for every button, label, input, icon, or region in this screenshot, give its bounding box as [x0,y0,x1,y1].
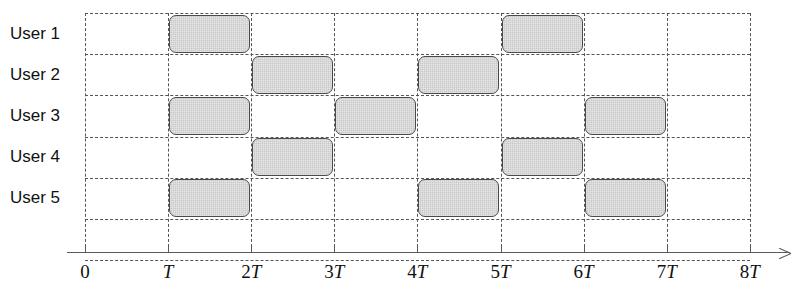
axis-tick [85,245,86,251]
allocation-block [169,97,250,135]
axis-tick-label: 7T [657,262,677,281]
row-label-user-4: User 4 [10,148,80,165]
allocation-block [418,179,499,217]
allocation-block [252,138,333,176]
allocation-block [418,56,499,94]
axis-tick-label: 6T [574,262,594,281]
axis-tick-label: 8T [740,262,760,281]
axis-tick [251,245,252,251]
axis-tick-label: 0 [80,262,90,281]
allocation-block [169,15,250,53]
row-label-user-3: User 3 [10,107,80,124]
grid-line-vertical [501,13,502,252]
axis-tick [667,245,668,251]
axis-line [67,252,790,253]
axis-tick [501,245,502,251]
axis-tick [584,245,585,251]
axis-tick-label: T [163,262,174,281]
row-label-user-1: User 1 [10,25,80,42]
row-label-user-2: User 2 [10,66,80,83]
grid-line-vertical [417,13,418,252]
axis-tick [168,245,169,251]
allocation-block [252,56,333,94]
grid-line-vertical [334,13,335,252]
axis-tick-label: 3T [324,262,344,281]
allocation-block [335,97,416,135]
grid-line-vertical [667,13,668,252]
row-label-user-5: User 5 [10,189,80,206]
schedule-chart: User 1User 2User 3User 4User 5 0T2T3T4T5… [0,0,799,294]
axis-tick-label: 5T [490,262,510,281]
axis-tick-label: 2T [241,262,261,281]
allocation-block [585,179,666,217]
axis-tick [750,245,751,251]
grid-line-vertical [750,13,751,252]
allocation-block [502,138,583,176]
grid-line-vertical [251,13,252,252]
grid-line-vertical [85,13,86,252]
axis-tick [334,245,335,251]
allocation-block [585,97,666,135]
axis-tick [417,245,418,251]
allocation-block [502,15,583,53]
allocation-block [169,179,250,217]
grid-line-vertical [584,13,585,252]
axis-tick-label: 4T [407,262,427,281]
